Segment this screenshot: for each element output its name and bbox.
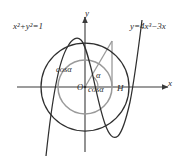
y-axis-label: y: [85, 9, 89, 18]
x-axis-label: x: [168, 79, 172, 88]
origin-point: [84, 86, 87, 89]
origin-label: O: [77, 83, 83, 92]
radius-segment: [85, 41, 112, 87]
cos-alpha-bottom-label: cosα: [88, 85, 104, 94]
angle-alpha-label: α: [96, 71, 100, 80]
circle-equation-label: x²+y²=1: [13, 22, 43, 31]
cubic-equation-label: y=4x³−3x: [130, 22, 166, 31]
math-figure: x²+y²=1 y=4x³−3x cosα cosα α O H x y: [0, 0, 193, 163]
point-h-label: H: [117, 84, 124, 93]
cos-alpha-left-label: cosα: [56, 65, 72, 74]
